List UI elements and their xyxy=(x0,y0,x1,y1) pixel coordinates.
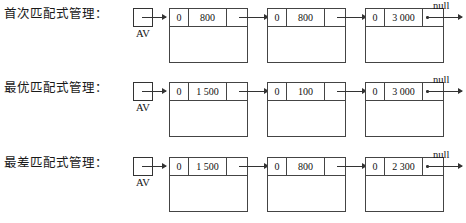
node-link-arrow-icon xyxy=(337,17,366,18)
node-size-cell: 3 000 xyxy=(385,9,423,26)
av-head-arrow-icon-worst-fit xyxy=(142,166,166,167)
node-size-cell: 3 000 xyxy=(385,83,423,100)
row-caption-worst-fit: 最差匹配式管理： xyxy=(4,155,124,171)
node-size-cell: 100 xyxy=(287,83,325,100)
node-tag-cell: 0 xyxy=(366,158,385,175)
node-link-arrow-icon xyxy=(337,166,366,167)
row-caption-best-fit: 最优匹配式管理： xyxy=(4,80,124,96)
null-link-arrow-icon xyxy=(429,166,462,167)
null-label: null xyxy=(433,0,449,12)
node-tag-cell: 0 xyxy=(268,83,287,100)
node-tag-cell: 0 xyxy=(170,158,189,175)
node-link-arrow-icon xyxy=(337,91,366,92)
list-node: 0 800 xyxy=(267,157,346,212)
node-size-cell: 800 xyxy=(287,9,325,26)
null-link-arrow-icon xyxy=(429,91,462,92)
node-link-arrow-icon xyxy=(239,91,268,92)
diagram-row-best-fit: 最优匹配式管理： AV 0 1 500 0 100 0 3 000 xyxy=(0,74,466,148)
node-size-cell: 800 xyxy=(287,158,325,175)
av-head-label-first-fit: AV xyxy=(128,28,158,40)
node-header: 0 1 500 xyxy=(170,158,247,176)
node-size-cell: 2 300 xyxy=(385,158,423,175)
node-header: 0 100 xyxy=(268,83,345,101)
node-tag-cell: 0 xyxy=(268,158,287,175)
node-size-cell: 1 500 xyxy=(189,158,227,175)
list-node: 0 1 500 xyxy=(169,157,248,212)
list-node: 0 1 500 xyxy=(169,82,248,137)
diagram-row-first-fit: 首次匹配式管理： AV 0 800 0 800 0 3 000 xyxy=(0,0,466,74)
av-head-label-worst-fit: AV xyxy=(128,177,158,189)
node-tag-cell: 0 xyxy=(366,9,385,26)
list-node: 0 800 xyxy=(267,8,346,63)
node-tag-cell: 0 xyxy=(170,83,189,100)
node-size-cell: 1 500 xyxy=(189,83,227,100)
node-tag-cell: 0 xyxy=(268,9,287,26)
node-tag-cell: 0 xyxy=(170,9,189,26)
null-label: null xyxy=(433,74,449,86)
node-header: 0 1 500 xyxy=(170,83,247,101)
row-caption-first-fit: 首次匹配式管理： xyxy=(4,6,124,22)
list-node: 0 100 xyxy=(267,82,346,137)
node-header: 0 800 xyxy=(268,9,345,27)
diagram-row-worst-fit: 最差匹配式管理： AV 0 1 500 0 800 0 2 300 xyxy=(0,149,466,223)
av-head-arrow-icon-best-fit xyxy=(142,91,166,92)
node-header: 0 3 000 xyxy=(366,83,443,101)
null-label: null xyxy=(433,149,449,161)
null-link-arrow-icon xyxy=(429,17,462,18)
av-head-arrow-icon-first-fit xyxy=(142,17,166,18)
node-header: 0 800 xyxy=(268,158,345,176)
memory-allocation-linked-list-diagram: 首次匹配式管理： AV 0 800 0 800 0 3 000 xyxy=(0,0,466,223)
node-header: 0 3 000 xyxy=(366,9,443,27)
node-tag-cell: 0 xyxy=(366,83,385,100)
av-head-label-best-fit: AV xyxy=(128,102,158,114)
list-node: 0 800 xyxy=(169,8,248,63)
node-link-arrow-icon xyxy=(239,17,268,18)
node-size-cell: 800 xyxy=(189,9,227,26)
node-link-arrow-icon xyxy=(239,166,268,167)
node-header: 0 800 xyxy=(170,9,247,27)
node-header: 0 2 300 xyxy=(366,158,443,176)
